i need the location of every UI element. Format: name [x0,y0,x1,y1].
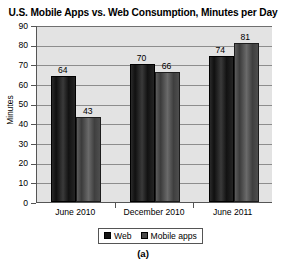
figure-container: U.S. Mobile Apps vs. Web Consumption, Mi… [0,0,286,267]
y-tick-label: 50 [0,100,28,109]
chart-title: U.S. Mobile Apps vs. Web Consumption, Mi… [0,7,286,19]
x-tick-label: June 2010 [30,207,120,217]
bar-apps [76,117,101,202]
y-tick-label: 60 [0,81,28,90]
bar-value-label: 81 [230,33,261,42]
y-axis-title: Minutes [5,82,15,138]
legend-item-web: Web [104,231,132,241]
y-tick-label: 0 [0,199,28,208]
legend-swatch-web-icon [104,232,111,239]
y-tick-label: 80 [0,41,28,50]
legend-label-mobile-apps: Mobile apps [151,231,197,241]
y-tick-mark [31,203,36,204]
y-tick-label: 30 [0,140,28,149]
legend-label-web: Web [114,231,132,241]
bar-value-label: 66 [151,62,182,71]
y-tick-label: 90 [0,22,28,31]
legend-swatch-mobile-apps-icon [141,232,148,239]
chart-legend: Web Mobile apps [98,228,203,244]
legend-item-mobile-apps: Mobile apps [141,231,197,241]
y-tick-label: 70 [0,61,28,70]
x-tick-label: June 2011 [188,207,278,217]
bar-web [51,76,76,202]
y-tick-label: 40 [0,120,28,129]
y-tick-label: 20 [0,159,28,168]
bar-web [209,56,234,202]
gridline [37,26,272,27]
bar-web [130,64,155,202]
x-tick-label: December 2010 [109,207,199,217]
y-tick-label: 10 [0,179,28,188]
bar-value-label: 64 [47,66,78,75]
bar-value-label: 43 [72,107,103,116]
bar-apps [155,72,180,202]
bar-value-label: 74 [205,46,236,55]
bar-apps [234,43,259,202]
figure-caption: (a) [0,248,286,259]
